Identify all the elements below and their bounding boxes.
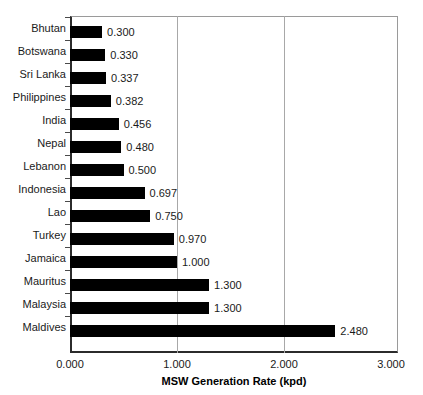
bar-row: 2.480 (70, 320, 398, 343)
bar-bhutan (70, 26, 102, 38)
bar-malaysia (70, 302, 209, 314)
bar-row: 0.750 (70, 205, 398, 228)
bar-row: 0.500 (70, 159, 398, 182)
category-label-bhutan: Bhutan (0, 21, 66, 35)
y-axis-category-labels: BhutanBotswanaSri LankaPhilippinesIndiaN… (0, 16, 66, 353)
bar-row: 0.697 (70, 182, 398, 205)
bar-jamaica (70, 256, 177, 268)
category-label-malaysia: Malaysia (0, 297, 66, 311)
bar-value-label: 1.300 (214, 300, 242, 316)
bar-value-label: 0.480 (126, 139, 154, 155)
bar-value-label: 0.970 (179, 231, 207, 247)
bar-philippines (70, 95, 111, 107)
category-label-indonesia: Indonesia (0, 182, 66, 196)
bar-lao (70, 210, 150, 222)
category-label-sri-lanka: Sri Lanka (0, 67, 66, 81)
bar-row: 0.300 (70, 21, 398, 44)
bar-maldives (70, 325, 335, 337)
x-axis-title: MSW Generation Rate (kpd) (70, 375, 398, 387)
bar-turkey (70, 233, 174, 245)
bar-lebanon (70, 164, 124, 176)
bar-value-label: 0.750 (155, 208, 183, 224)
bar-india (70, 118, 119, 130)
category-label-lao: Lao (0, 205, 66, 219)
bar-value-label: 0.382 (116, 93, 144, 109)
category-label-india: India (0, 113, 66, 127)
bar-row: 0.382 (70, 90, 398, 113)
bar-value-label: 1.000 (182, 254, 210, 270)
category-label-lebanon: Lebanon (0, 159, 66, 173)
bar-botswana (70, 49, 105, 61)
bar-row: 0.456 (70, 113, 398, 136)
category-label-philippines: Philippines (0, 90, 66, 104)
bar-row: 1.000 (70, 251, 398, 274)
bar-value-label: 0.330 (110, 47, 138, 63)
bar-row: 0.480 (70, 136, 398, 159)
bar-row: 1.300 (70, 297, 398, 320)
bar-value-label: 1.300 (214, 277, 242, 293)
bar-value-label: 0.500 (129, 162, 157, 178)
bar-value-label: 2.480 (340, 323, 368, 339)
category-label-botswana: Botswana (0, 44, 66, 58)
bar-value-label: 0.337 (111, 70, 139, 86)
bars-layer: 0.3000.3300.3370.3820.4560.4800.5000.697… (70, 16, 398, 353)
category-label-nepal: Nepal (0, 136, 66, 150)
bar-nepal (70, 141, 121, 153)
bar-row: 0.970 (70, 228, 398, 251)
bar-value-label: 0.300 (107, 24, 135, 40)
bar-value-label: 0.456 (124, 116, 152, 132)
category-label-mauritus: Mauritus (0, 274, 66, 288)
bar-indonesia (70, 187, 145, 199)
category-label-maldives: Maldives (0, 320, 66, 334)
bar-sri-lanka (70, 72, 106, 84)
x-tick-label-3.000: 3.000 (361, 357, 421, 371)
x-tick-label-1.000: 1.000 (147, 357, 207, 371)
bar-mauritus (70, 279, 209, 291)
bar-row: 0.337 (70, 67, 398, 90)
x-tick-label-2.000: 2.000 (254, 357, 314, 371)
bar-value-label: 0.697 (150, 185, 178, 201)
category-label-turkey: Turkey (0, 228, 66, 242)
bar-row: 1.300 (70, 274, 398, 297)
bar-row: 0.330 (70, 44, 398, 67)
x-tick-label-0.000: 0.000 (40, 357, 100, 371)
category-label-jamaica: Jamaica (0, 251, 66, 265)
msw-generation-rate-chart: 0.3000.3300.3370.3820.4560.4800.5000.697… (0, 0, 423, 395)
